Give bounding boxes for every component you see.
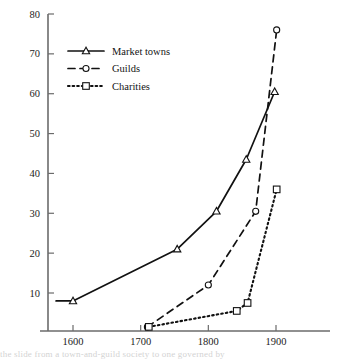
data-point-marker	[253, 208, 259, 214]
data-point-marker	[273, 186, 280, 193]
chart-legend: Market townsGuildsCharities	[68, 46, 170, 92]
series-market-towns	[56, 88, 278, 304]
legend-label-0: Market towns	[112, 46, 170, 57]
square-marker-icon	[83, 83, 90, 90]
y-tick-label-70: 70	[30, 48, 41, 59]
line-chart: 10203040506070801600170018001900Market t…	[0, 0, 337, 363]
chart-container: 10203040506070801600170018001900Market t…	[0, 0, 337, 363]
series-line	[147, 30, 276, 327]
page-bottom-text-fragment: the slide from a town-and-guild society …	[0, 349, 337, 363]
y-tick-label-30: 30	[30, 208, 41, 219]
x-tick-label-1800: 1800	[198, 336, 219, 347]
data-point-marker	[205, 282, 211, 288]
legend-label-1: Guilds	[112, 63, 140, 74]
data-point-marker	[244, 300, 251, 307]
y-tick-label-50: 50	[30, 128, 41, 139]
data-point-marker	[274, 27, 280, 33]
data-point-marker	[145, 324, 152, 331]
y-tick-label-80: 80	[30, 9, 41, 20]
x-tick-label-1700: 1700	[130, 336, 151, 347]
legend-label-2: Charities	[112, 81, 150, 92]
x-tick-label-1600: 1600	[63, 336, 84, 347]
y-tick-label-10: 10	[30, 288, 41, 299]
y-tick-label-40: 40	[30, 168, 41, 179]
x-tick-label-1900: 1900	[266, 336, 287, 347]
circle-marker-icon	[83, 65, 89, 71]
series-guilds	[144, 27, 279, 330]
series-line	[56, 92, 275, 301]
data-point-marker	[271, 88, 278, 95]
data-point-marker	[243, 156, 250, 163]
y-tick-label-60: 60	[30, 88, 41, 99]
y-tick-label-20: 20	[30, 248, 41, 259]
data-point-marker	[233, 308, 240, 315]
series-charities	[145, 186, 279, 330]
